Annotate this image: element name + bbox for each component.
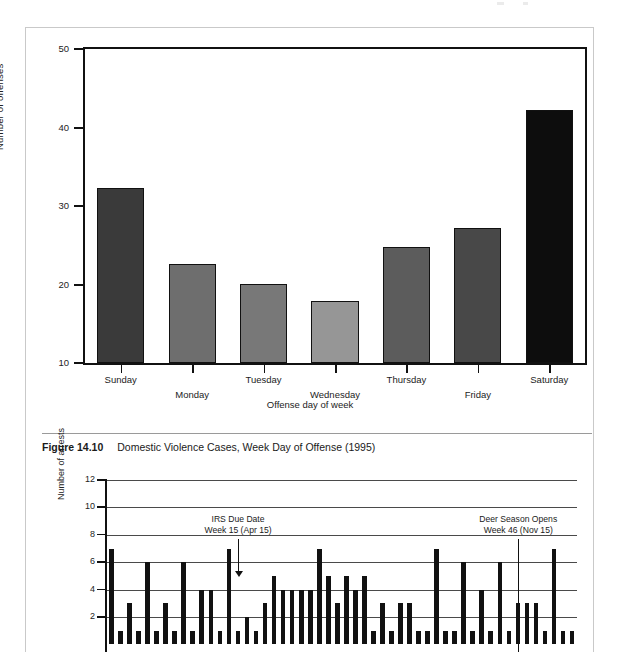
chart2-bar-slot bbox=[559, 479, 568, 644]
chart2-bar-slot bbox=[134, 479, 143, 644]
chart2-bar bbox=[416, 631, 421, 645]
chart2-bar bbox=[398, 603, 403, 644]
chart2-bar-slot bbox=[315, 479, 324, 644]
chart2-bar-slot bbox=[541, 479, 550, 644]
chart2-bar bbox=[181, 562, 186, 644]
chart2-bar bbox=[299, 590, 304, 645]
chart2-bar bbox=[218, 631, 223, 645]
chart2-bar bbox=[172, 631, 177, 645]
chart2-y-tick-label: 2 bbox=[73, 611, 95, 621]
chart2-bar-series bbox=[107, 479, 577, 644]
chart2-bar-slot bbox=[351, 479, 360, 644]
chart2-bar bbox=[236, 631, 241, 645]
chart2-y-tick-label: 12 bbox=[73, 474, 95, 484]
chart2-bar-slot bbox=[261, 479, 270, 644]
chart2-bar-slot bbox=[179, 479, 188, 644]
chart2-annotation-deer-season-opens: Deer Season OpensWeek 46 (Nov 15) bbox=[479, 514, 557, 536]
chart2-bar bbox=[479, 590, 484, 645]
chart2-bar bbox=[335, 603, 340, 644]
chart2-bar bbox=[344, 576, 349, 645]
chart2-bar-slot bbox=[224, 479, 233, 644]
chart2-bar-slot bbox=[504, 479, 513, 644]
annotation-line-2: Week 15 (Apr 15) bbox=[204, 525, 271, 536]
chart2-bar bbox=[290, 590, 295, 645]
chart2-bar-slot bbox=[215, 479, 224, 644]
chart2-bar bbox=[145, 562, 150, 644]
chart2-annotation-irs-due-date: IRS Due DateWeek 15 (Apr 15) bbox=[204, 514, 271, 536]
annotation-line-2: Week 46 (Nov 15) bbox=[479, 525, 557, 536]
chart2-bar-slot bbox=[369, 479, 378, 644]
chart2-bar bbox=[552, 549, 557, 645]
chart2-bar-slot bbox=[152, 479, 161, 644]
chart2-bar bbox=[443, 631, 448, 645]
chart2-bar bbox=[227, 549, 232, 645]
chart2-bar-slot bbox=[288, 479, 297, 644]
chart2-bar bbox=[362, 576, 367, 645]
chart2-bar-slot bbox=[477, 479, 486, 644]
textbook-page: Number of offenses 1020304050 SundayMond… bbox=[0, 0, 620, 652]
chart2-y-axis-title: Number of arrests bbox=[56, 350, 66, 500]
chart2-bar bbox=[570, 631, 575, 645]
chart2-bar bbox=[488, 631, 493, 645]
chart2-bar-slot bbox=[297, 479, 306, 644]
chart2-bar bbox=[272, 576, 277, 645]
chart2-bar bbox=[136, 631, 141, 645]
chart2-bar-slot bbox=[495, 479, 504, 644]
chart2-bar bbox=[452, 631, 457, 645]
chart2-bar bbox=[470, 631, 475, 645]
chart2-bar-slot bbox=[550, 479, 559, 644]
chart2-bar bbox=[534, 603, 539, 644]
chart2-bar-slot bbox=[306, 479, 315, 644]
chart2-bar bbox=[163, 603, 168, 644]
chart2-bar-slot bbox=[396, 479, 405, 644]
chart2-bar bbox=[425, 631, 430, 645]
chart2-bar bbox=[127, 603, 132, 644]
annotation-line-1: IRS Due Date bbox=[204, 514, 271, 525]
chart2-bar bbox=[154, 631, 159, 645]
chart2-bar-slot bbox=[188, 479, 197, 644]
chart2-y-tick-label: 4 bbox=[73, 584, 95, 594]
chart2-y-tick-mark bbox=[97, 616, 105, 618]
annotation-arrow-head bbox=[235, 571, 243, 577]
chart2-y-tick-mark bbox=[97, 506, 105, 508]
chart2-bar-slot bbox=[378, 479, 387, 644]
chart2-bar-slot bbox=[387, 479, 396, 644]
annotation-vertical-line bbox=[518, 539, 519, 652]
chart2-bar-slot bbox=[270, 479, 279, 644]
chart2-bar bbox=[498, 562, 503, 644]
chart2-bar bbox=[326, 576, 331, 645]
chart2-y-tick-mark bbox=[97, 561, 105, 563]
chart2-bar-slot bbox=[252, 479, 261, 644]
chart2-bar bbox=[353, 590, 358, 645]
chart2-bar-slot bbox=[468, 479, 477, 644]
chart2-y-tick-label: 8 bbox=[73, 529, 95, 539]
chart2-bar-slot bbox=[206, 479, 215, 644]
chart2-bar-slot bbox=[242, 479, 251, 644]
annotation-line-1: Deer Season Opens bbox=[479, 514, 557, 525]
chart2-bar-slot bbox=[450, 479, 459, 644]
chart2-bar-slot bbox=[161, 479, 170, 644]
chart2-bar-slot bbox=[568, 479, 577, 644]
chart2-bar bbox=[389, 631, 394, 645]
chart2-bar bbox=[380, 603, 385, 644]
chart2-bar bbox=[308, 590, 313, 645]
chart2-bar bbox=[461, 562, 466, 644]
chart2-bar-slot bbox=[360, 479, 369, 644]
chart2-bar-slot bbox=[170, 479, 179, 644]
chart2-bar-slot bbox=[324, 479, 333, 644]
chart2-bar-slot bbox=[143, 479, 152, 644]
chart2-bar-slot bbox=[432, 479, 441, 644]
chart2-bar bbox=[407, 603, 412, 644]
chart2-bar bbox=[245, 617, 250, 644]
chart2-bar bbox=[118, 631, 123, 645]
chart2-bar-slot bbox=[441, 479, 450, 644]
chart2-bar bbox=[371, 631, 376, 645]
chart2-bar bbox=[543, 631, 548, 645]
chart2-bar bbox=[109, 549, 114, 645]
chart2-bar-slot bbox=[107, 479, 116, 644]
chart2-bar-slot bbox=[333, 479, 342, 644]
chart2-bar bbox=[561, 631, 566, 645]
chart2-bar-slot bbox=[125, 479, 134, 644]
chart2-bar-slot bbox=[423, 479, 432, 644]
chart2-y-tick-label: 6 bbox=[73, 556, 95, 566]
